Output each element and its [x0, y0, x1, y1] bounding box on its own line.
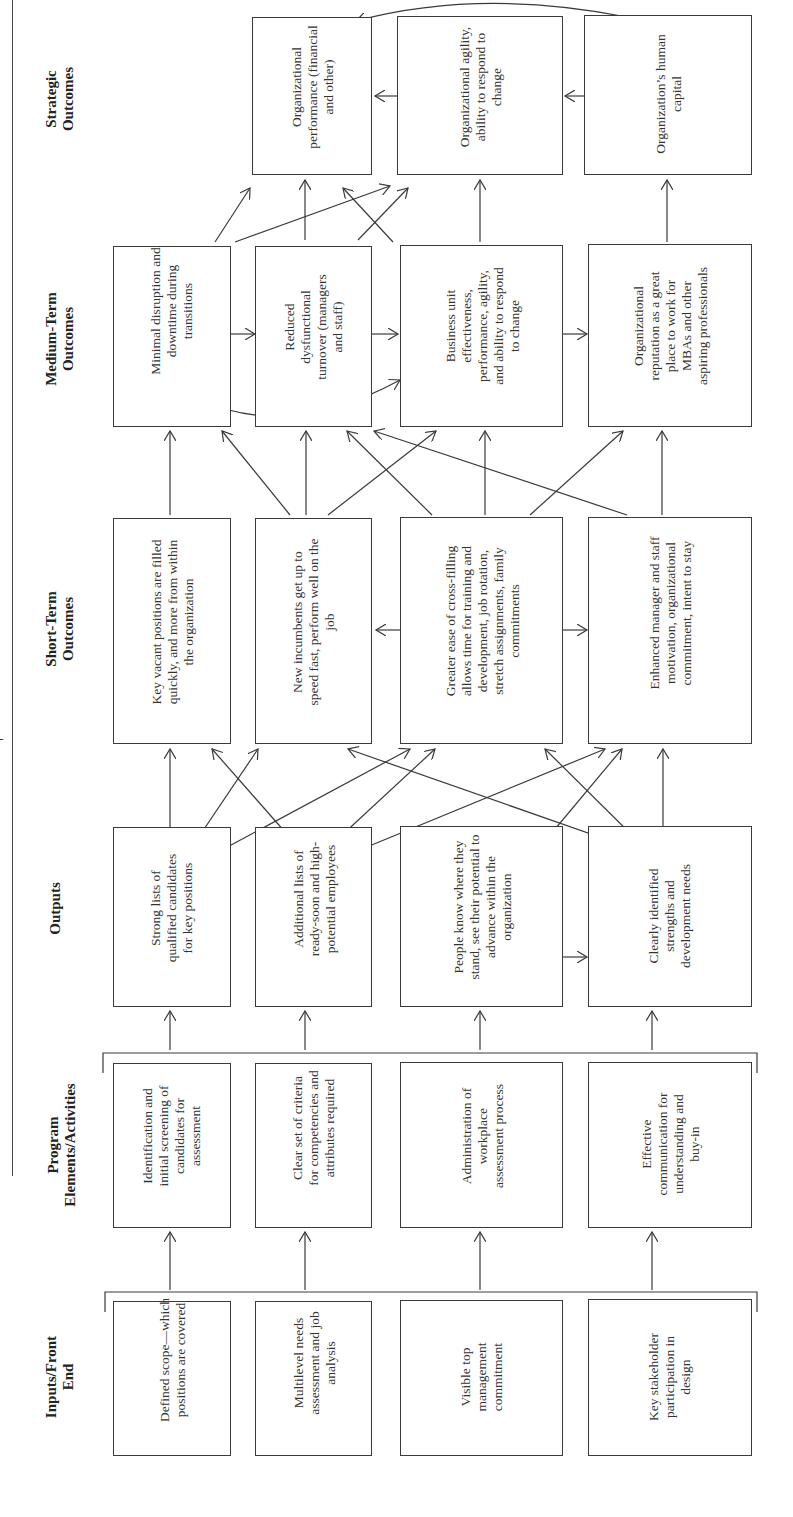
- short-term-text-2: New incumbents get up to speed fast, per…: [290, 537, 338, 707]
- input-box-1: Defined scope—which positions are covere…: [113, 1301, 231, 1456]
- program-text-4: Effective communication for understandin…: [639, 1087, 703, 1202]
- short-term-box-4: Enhanced manager and staff motivation, o…: [588, 517, 752, 744]
- program-box-1: Identification and initial screening of …: [113, 1063, 231, 1228]
- medium-term-box-2: Reduced dysfunctional turnover (managers…: [255, 246, 372, 427]
- output-text-3: People know where they stand, see their …: [450, 824, 514, 989]
- short-term-box-2: New incumbents get up to speed fast, per…: [255, 518, 372, 744]
- medium-term-text-4: Organizational reputation as a great pla…: [631, 263, 711, 388]
- output-text-4: Clearly identified strengths and develop…: [646, 851, 694, 981]
- strategic-box-1: Organizational performance (financial an…: [252, 17, 372, 175]
- medium-term-text-2: Reduced dysfunctional turnover (managers…: [282, 272, 346, 382]
- input-text-3: Visible top management commitment: [458, 1312, 506, 1442]
- strategic-text-3: Organization’s human capital: [653, 32, 685, 157]
- medium-term-text-1: Minimal disruption and downtime during t…: [148, 241, 196, 381]
- short-term-text-3: Greater ease of cross-filling allows tim…: [442, 533, 522, 708]
- input-box-2: Multilevel needs assessment and job anal…: [255, 1301, 372, 1456]
- strategic-text-2: Organizational agility, ability to respo…: [457, 24, 505, 149]
- medium-term-text-3: Business unit effectiveness, performance…: [442, 264, 522, 389]
- input-text-2: Multilevel needs assessment and job anal…: [290, 1310, 338, 1415]
- output-box-2: Additional lists of ready-soon and high-…: [255, 827, 372, 1007]
- input-box-4: Key stakeholder participation in design: [588, 1299, 752, 1456]
- input-text-4: Key stakeholder participation in design: [646, 1322, 694, 1432]
- short-term-box-3: Greater ease of cross-filling allows tim…: [400, 517, 563, 744]
- medium-term-box-1: Minimal disruption and downtime during t…: [113, 246, 231, 427]
- short-term-text-4: Enhanced manager and staff motivation, o…: [647, 520, 695, 705]
- output-text-2: Additional lists of ready-soon and high-…: [290, 837, 338, 962]
- output-box-4: Clearly identified strengths and develop…: [588, 826, 752, 1007]
- strategic-box-3: Organization’s human capital: [584, 15, 752, 175]
- medium-term-box-3: Business unit effectiveness, performance…: [400, 245, 563, 427]
- connector-layer: [0, 0, 793, 1517]
- output-text-1: Strong lists of qualified candidates for…: [148, 848, 196, 968]
- output-box-1: Strong lists of qualified candidates for…: [113, 827, 231, 1007]
- short-term-box-1: Key vacant positions are filled quickly,…: [113, 518, 231, 744]
- program-box-3: Administration of workplace assessment p…: [400, 1062, 563, 1228]
- medium-term-box-4: Organizational reputation as a great pla…: [588, 244, 752, 427]
- strategic-text-1: Organizational performance (financial an…: [289, 25, 337, 150]
- program-text-2: Clear set of criteria for competencies a…: [290, 1068, 338, 1188]
- short-term-text-1: Key vacant positions are filled quickly,…: [149, 535, 197, 710]
- program-text-3: Administration of workplace assessment p…: [458, 1079, 506, 1194]
- program-box-4: Effective communication for understandin…: [588, 1062, 752, 1228]
- program-text-1: Identification and initial screening of …: [140, 1076, 204, 1196]
- input-text-1: Defined scope—which positions are covere…: [157, 1297, 189, 1422]
- output-box-3: People know where they stand, see their …: [400, 826, 563, 1007]
- strategic-box-2: Organizational agility, ability to respo…: [397, 16, 563, 175]
- program-box-2: Clear set of criteria for competencies a…: [255, 1063, 372, 1228]
- input-box-3: Visible top management commitment: [400, 1300, 563, 1456]
